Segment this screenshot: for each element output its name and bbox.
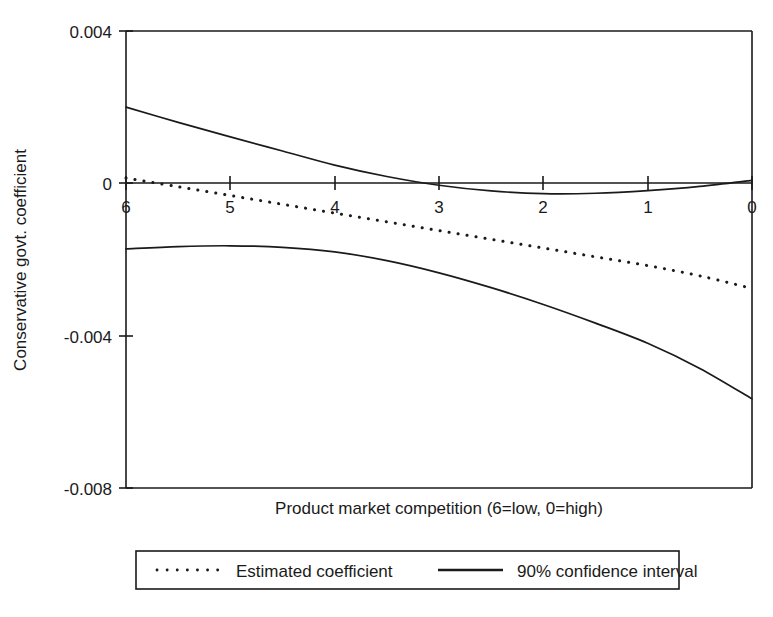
- chart-figure: 0.004 0 -0.004 -0.008 6 5 4 3 2 1 0: [0, 0, 773, 617]
- x-tick-label-4: 4: [330, 198, 339, 217]
- y-tick-label-1: 0: [103, 175, 112, 194]
- x-tick-label-6: 6: [121, 198, 130, 217]
- x-tick-label-0: 0: [747, 198, 756, 217]
- series-confidence-lower: [126, 246, 752, 399]
- chart-legend: Estimated coefficient 90% confidence int…: [136, 551, 698, 589]
- x-tick-label-3: 3: [434, 198, 443, 217]
- y-tick-label-2: -0.004: [64, 328, 112, 347]
- legend-label-estimated: Estimated coefficient: [236, 562, 393, 581]
- series-estimated-coefficient: [126, 178, 752, 288]
- x-tick-label-1: 1: [643, 198, 652, 217]
- y-axis-title: Conservative govt. coefficient: [11, 149, 30, 371]
- legend-label-interval: 90% confidence interval: [517, 562, 698, 581]
- x-tick-label-5: 5: [225, 198, 234, 217]
- y-tick-label-3: -0.008: [64, 480, 112, 499]
- chart-canvas: 0.004 0 -0.004 -0.008 6 5 4 3 2 1 0: [0, 0, 773, 617]
- x-tick-label-2: 2: [538, 198, 547, 217]
- y-tick-label-0: 0.004: [69, 23, 112, 42]
- x-axis-tick-labels: 6 5 4 3 2 1 0: [121, 198, 756, 217]
- y-axis-tick-labels: 0.004 0 -0.004 -0.008: [64, 23, 112, 499]
- data-series-group: [126, 107, 752, 399]
- x-axis-title: Product market competition (6=low, 0=hig…: [275, 499, 603, 518]
- plot-frame: [126, 31, 752, 488]
